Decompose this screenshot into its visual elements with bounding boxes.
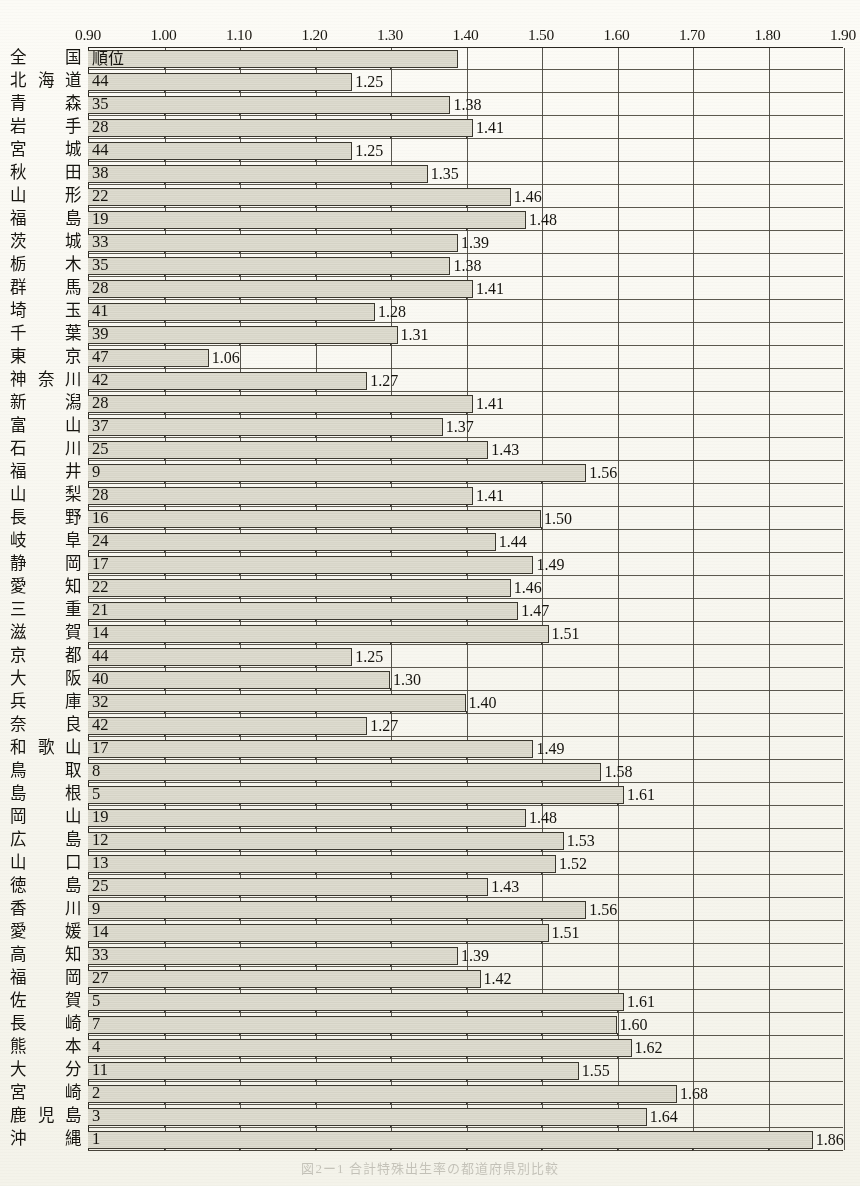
chart-row: 大阪401.30 <box>0 668 860 691</box>
pref-name-char: 媛 <box>65 924 82 941</box>
chart-row: 鹿児島31.64 <box>0 1105 860 1128</box>
bar <box>88 1108 647 1126</box>
prefecture-label: 山口 <box>8 852 84 875</box>
pref-name-char: 国 <box>65 50 82 67</box>
pref-name-char: 都 <box>65 648 82 665</box>
prefecture-label: 愛知 <box>8 576 84 599</box>
chart-row: 香川91.56 <box>0 898 860 921</box>
bar-value-label: 1.52 <box>559 852 587 875</box>
chart-row: 沖縄11.86 <box>0 1128 860 1151</box>
pref-name-char: 鹿 <box>10 1108 27 1125</box>
prefecture-label: 香川 <box>8 898 84 921</box>
pref-name-char: 千 <box>10 326 27 343</box>
chart-row: 千葉391.31 <box>0 323 860 346</box>
pref-name-char: 山 <box>10 188 27 205</box>
bar-value-label: 1.86 <box>816 1128 844 1151</box>
pref-name-char: 知 <box>65 947 82 964</box>
bar-value-label: 1.64 <box>650 1105 678 1128</box>
pref-name-char: 海 <box>38 73 55 90</box>
bar <box>88 1016 617 1034</box>
bar-value-label: 1.43 <box>491 875 519 898</box>
prefecture-label: 岡山 <box>8 806 84 829</box>
bar-value-label: 1.44 <box>499 530 527 553</box>
bar <box>88 142 352 160</box>
pref-name-char: 川 <box>65 441 82 458</box>
prefecture-label: 熊本 <box>8 1036 84 1059</box>
pref-name-char: 高 <box>10 947 27 964</box>
bar-value-label: 1.35 <box>431 162 459 185</box>
bar-value-label: 1.50 <box>544 507 572 530</box>
chart-row: 神奈川421.27 <box>0 369 860 392</box>
pref-name-char: 神 <box>10 372 27 389</box>
bar <box>88 763 601 781</box>
bar-value-label: 1.30 <box>393 668 421 691</box>
prefecture-label: 長野 <box>8 507 84 530</box>
pref-name-char: 島 <box>65 878 82 895</box>
chart-row: 岡山191.48 <box>0 806 860 829</box>
pref-name-char: 良 <box>65 717 82 734</box>
pref-name-char: 取 <box>65 763 82 780</box>
bar-value-label: 1.68 <box>680 1082 708 1105</box>
pref-name-char: 長 <box>10 510 27 527</box>
bar <box>88 395 473 413</box>
pref-name-char: 山 <box>65 740 82 757</box>
chart-row: 富山371.37 <box>0 415 860 438</box>
bar <box>88 487 473 505</box>
bar <box>88 1039 632 1057</box>
pref-name-char: 福 <box>10 970 27 987</box>
pref-name-char: 賀 <box>65 625 82 642</box>
bar <box>88 855 556 873</box>
chart-row: 山梨281.41 <box>0 484 860 507</box>
pref-name-char: 京 <box>10 648 27 665</box>
bar <box>88 96 450 114</box>
pref-name-char: 田 <box>65 165 82 182</box>
chart-row: 鳥取81.58 <box>0 760 860 783</box>
bar-value-label: 1.41 <box>476 484 504 507</box>
prefecture-label: 静岡 <box>8 553 84 576</box>
bar <box>88 349 209 367</box>
bar <box>88 556 533 574</box>
pref-name-char: 知 <box>65 579 82 596</box>
chart-row: 京都441.25 <box>0 645 860 668</box>
pref-name-char: 徳 <box>10 878 27 895</box>
bar <box>88 326 398 344</box>
pref-name-char: 奈 <box>10 717 27 734</box>
pref-name-char: 大 <box>10 1062 27 1079</box>
bar-value-label: 1.56 <box>589 461 617 484</box>
pref-name-char: 島 <box>65 211 82 228</box>
pref-name-char: 岐 <box>10 533 27 550</box>
pref-name-char: 宮 <box>10 1085 27 1102</box>
pref-name-char: 秋 <box>10 165 27 182</box>
pref-name-char: 島 <box>65 832 82 849</box>
pref-name-char: 島 <box>65 1108 82 1125</box>
prefecture-label: 富山 <box>8 415 84 438</box>
bar-value-label: 1.41 <box>476 277 504 300</box>
pref-name-char: 佐 <box>10 993 27 1010</box>
pref-name-char: 和 <box>10 740 27 757</box>
bar-value-label: 1.06 <box>212 346 240 369</box>
chart-row: 北海道441.25 <box>0 70 860 93</box>
pref-name-char: 森 <box>65 96 82 113</box>
chart-row: 埼玉411.28 <box>0 300 860 323</box>
separator-tick <box>768 1148 769 1151</box>
pref-name-char: 滋 <box>10 625 27 642</box>
bar-value-label: 1.28 <box>378 300 406 323</box>
pref-name-char: 玉 <box>65 303 82 320</box>
pref-name-char: 静 <box>10 556 27 573</box>
prefecture-label: 東京 <box>8 346 84 369</box>
pref-name-char: 福 <box>10 211 27 228</box>
chart-page: 0.901.001.101.201.301.401.501.601.701.80… <box>0 0 860 1186</box>
bar-value-label: 1.39 <box>461 231 489 254</box>
chart-row: 福井91.56 <box>0 461 860 484</box>
bar <box>88 165 428 183</box>
bar-value-label: 1.37 <box>446 415 474 438</box>
bar <box>88 625 549 643</box>
prefecture-label: 新潟 <box>8 392 84 415</box>
bar <box>88 947 458 965</box>
prefecture-label: 岐阜 <box>8 530 84 553</box>
separator-tick <box>541 1148 542 1151</box>
separator-tick <box>164 1148 165 1151</box>
bar-value-label: 1.49 <box>536 553 564 576</box>
bar <box>88 579 511 597</box>
bar <box>88 303 375 321</box>
